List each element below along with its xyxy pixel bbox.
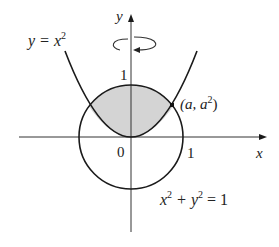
origin-label: 0 [117,144,125,160]
parabola-label: y = x2 [26,30,66,50]
intersection-label: (a, a2) [180,94,218,113]
circle-equation-label: x2 + y2 = 1 [159,189,228,209]
y-axis-label: y [114,8,123,24]
y-axis-arrow-icon [128,14,134,22]
x-axis-arrow-icon [259,134,267,140]
tick-label-y-1: 1 [120,67,128,83]
x-axis-label: x [255,145,263,161]
rotation-arrow-icon [113,37,156,53]
tick-label-x-1: 1 [187,145,195,161]
diagram-canvas: y x 1 1 0 y = x2 (a, a2) x2 + y2 = 1 [0,0,279,247]
intersection-point [170,103,174,107]
